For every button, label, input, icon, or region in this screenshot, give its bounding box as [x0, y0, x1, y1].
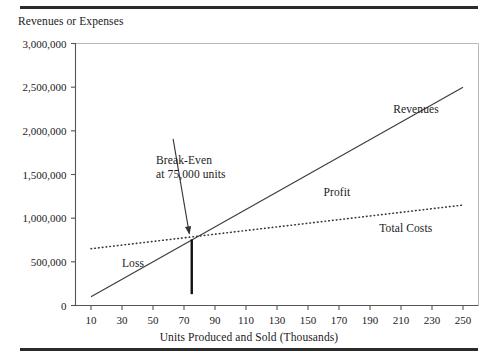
x-tick-label: 190: [362, 314, 379, 326]
x-tick-label: 130: [269, 314, 286, 326]
x-tick-label: 70: [179, 314, 190, 326]
y-tick-label: 1,500,000: [23, 169, 67, 181]
y-tick-label: 500,000: [31, 256, 67, 268]
series-group: [91, 87, 463, 297]
ticks-group: [71, 44, 463, 311]
y-tick-label: 2,500,000: [23, 81, 67, 93]
x-tick-label: 230: [424, 314, 441, 326]
x-tick-label: 30: [117, 314, 128, 326]
region-label-loss: Loss: [122, 257, 144, 269]
series-line-revenues: [91, 87, 463, 297]
x-tick-label: 10: [86, 314, 97, 326]
y-tick-label: 2,000,000: [23, 125, 67, 137]
x-tick-label: 170: [331, 314, 348, 326]
break-even-arrow-head: [185, 226, 191, 235]
y-tick-label: 1,000,000: [23, 212, 67, 224]
break-even-annotation-line2: at 75,000 units: [156, 167, 226, 181]
x-tick-label: 90: [210, 314, 221, 326]
figure-container: Revenues or Expenses 0500,0001,000,0001,…: [0, 0, 498, 360]
x-tick-label: 210: [393, 314, 410, 326]
x-tick-label: 150: [300, 314, 317, 326]
break-even-annotation: Break-Evenat 75,000 units: [156, 153, 226, 181]
x-axis-title: Units Produced and Sold (Thousands): [0, 331, 498, 343]
plot-svg: [0, 0, 498, 360]
series-label-total-costs: Total Costs: [379, 222, 432, 234]
y-tick-label: 0: [61, 300, 67, 312]
x-tick-label: 50: [148, 314, 159, 326]
region-label-profit: Profit: [324, 186, 351, 198]
break-even-annotation-line1: Break-Even: [156, 153, 226, 167]
x-tick-label: 250: [455, 314, 472, 326]
y-tick-label: 3,000,000: [23, 38, 67, 50]
series-label-revenues: Revenues: [393, 103, 439, 115]
x-tick-label: 110: [238, 314, 254, 326]
